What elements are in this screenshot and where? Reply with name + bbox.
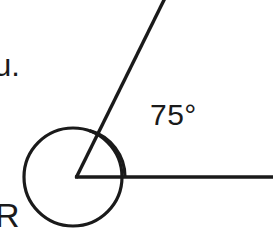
slanted-ray	[76, 0, 165, 178]
text-fragment-top: u.	[0, 50, 20, 81]
angle-diagram: 75° u. R	[0, 0, 273, 234]
angle-measure-label: 75°	[150, 100, 197, 130]
geometry-figure	[0, 0, 273, 234]
text-fragment-bottom: R	[0, 198, 20, 232]
